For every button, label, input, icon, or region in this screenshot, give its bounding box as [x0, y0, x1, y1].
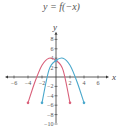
x-tick-label: 4	[83, 80, 86, 86]
chart-plot: xy−6−4−22468642−2−4−6−8−10	[0, 0, 123, 140]
x-tick-label: −4	[25, 80, 31, 86]
y-tick-label: −8	[47, 112, 53, 118]
x-tick-label: −6	[11, 80, 17, 86]
y-tick-label: 6	[51, 46, 54, 52]
point-marker	[27, 102, 30, 105]
x-tick-label: 2	[69, 80, 72, 86]
x-axis-label: x	[111, 72, 116, 82]
x-axis-left-arrow-icon	[5, 76, 8, 79]
y-axis-label: y	[52, 22, 57, 32]
x-axis-right-arrow-icon	[106, 76, 109, 79]
y-tick-label: −6	[47, 102, 53, 108]
y-tick-label: −10	[44, 121, 53, 127]
y-tick-label: 8	[51, 36, 54, 42]
x-tick-label: 6	[97, 80, 100, 86]
x-tick-label: −2	[39, 80, 45, 86]
point-marker	[69, 102, 72, 105]
y-tick-label: −2	[47, 83, 53, 89]
point-marker	[55, 59, 58, 62]
y-axis-arrow-icon	[55, 32, 58, 35]
point-marker	[83, 102, 86, 105]
point-marker	[41, 102, 44, 105]
axes: xy−6−4−22468642−2−4−6−8−10	[5, 22, 116, 127]
y-tick-label: −4	[47, 93, 53, 99]
